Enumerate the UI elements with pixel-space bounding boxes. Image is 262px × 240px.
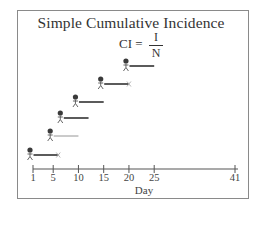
tick-label: 20	[124, 172, 135, 183]
person-figure-icon	[28, 153, 33, 161]
tick-label: 25	[149, 172, 160, 183]
subject-timelines	[27, 58, 154, 160]
subject-4	[73, 94, 104, 107]
tick-label: 1	[30, 172, 35, 183]
tick-label: 10	[73, 172, 84, 183]
subject-6	[123, 58, 154, 71]
tick-label: 15	[98, 172, 109, 183]
subject-2	[48, 128, 79, 141]
person-head-icon	[123, 58, 128, 63]
person-head-icon	[27, 147, 32, 152]
axis-title: Day	[0, 184, 262, 196]
subject-3	[58, 110, 89, 123]
person-figure-icon	[98, 82, 103, 90]
subject-1	[27, 147, 60, 160]
person-figure-icon	[73, 100, 78, 108]
tick-label: 5	[51, 172, 56, 183]
person-figure-icon	[58, 116, 63, 124]
person-head-icon	[98, 76, 103, 81]
person-figure-icon	[48, 134, 53, 142]
person-figure-icon	[123, 64, 128, 72]
person-head-icon	[73, 94, 78, 99]
tick-label: 41	[230, 172, 241, 183]
subject-5	[98, 76, 131, 89]
person-head-icon	[58, 110, 63, 115]
person-head-icon	[48, 128, 53, 133]
